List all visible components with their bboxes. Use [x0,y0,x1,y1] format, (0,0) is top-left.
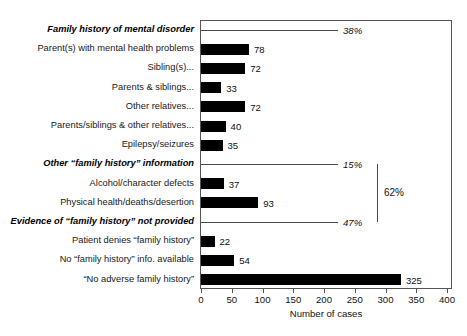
x-axis-tick [293,289,294,293]
bar [201,255,234,266]
bar-value-label: 37 [229,179,240,190]
bar-value-label: 40 [231,121,242,132]
x-axis-tick-label: 350 [408,294,424,305]
bar-value-label: 72 [250,102,261,113]
group-percent-label: 15% [343,159,362,170]
family-history-bar-chart: Family history of mental disorderParent(… [0,0,467,336]
bar [201,178,224,189]
bar-value-label: 78 [254,44,265,55]
x-axis-tick-label: 400 [439,294,455,305]
x-axis-tick-label: 200 [316,294,332,305]
group-leader-line [201,30,338,31]
bar [201,140,223,151]
bar [201,236,215,247]
x-axis-tick [447,289,448,293]
bar [201,101,245,112]
category-label: Sibling(s)... [0,62,194,72]
x-axis-tick-label: 0 [198,294,203,305]
x-axis-tick [263,289,264,293]
category-label: Patient denies “family history” [0,235,194,245]
bracket-percent-label: 62% [384,187,404,198]
category-label: Parents/siblings & other relatives... [0,120,194,130]
bar [201,63,245,74]
group-leader-line [201,222,338,223]
category-label-column: Family history of mental disorderParent(… [0,0,197,290]
x-axis-tick-label: 150 [285,294,301,305]
plot-area: 38%78723372403515%379347%225432562% [200,20,452,289]
x-axis-tick-label: 250 [347,294,363,305]
bar-value-label: 72 [250,63,261,74]
group-label: Family history of mental disorder [0,24,194,34]
group-label: Evidence of “family history” not provide… [0,216,194,226]
category-label: Other relatives... [0,101,194,111]
category-label: “No adverse family history” [0,274,194,284]
x-axis-tick [355,289,356,293]
bar-value-label: 35 [228,140,239,151]
bar-value-label: 325 [406,275,422,286]
category-label: Epilepsy/seizures [0,139,194,149]
category-label: Alcohol/character defects [0,178,194,188]
x-axis-tick-label: 100 [254,294,270,305]
bar [201,121,226,132]
x-axis-tick-label: 300 [377,294,393,305]
x-axis-tick [386,289,387,293]
category-label: Physical health/deaths/desertion [0,197,194,207]
x-axis: 050100150200250300350400 [200,289,452,290]
group-percent-label: 47% [343,217,362,228]
x-axis-tick [416,289,417,293]
group-leader-line [201,164,338,165]
x-axis-tick [232,289,233,293]
x-axis-tick [324,289,325,293]
bar [201,82,221,93]
bar-value-label: 33 [226,83,237,94]
bracket-line [377,164,378,222]
bar-value-label: 93 [263,198,274,209]
category-label: No “family history” info. available [0,254,194,264]
group-percent-label: 38% [343,25,362,36]
bar-value-label: 22 [220,236,231,247]
bar [201,274,401,285]
category-label: Parents & siblings... [0,82,194,92]
group-label: Other “family history” information [0,158,194,168]
x-axis-title: Number of cases [200,308,452,319]
x-axis-tick [201,289,202,293]
category-label: Parent(s) with mental health problems [0,43,194,53]
bar [201,197,258,208]
bar-value-label: 54 [239,255,250,266]
x-axis-tick-label: 50 [226,294,237,305]
bar [201,44,249,55]
